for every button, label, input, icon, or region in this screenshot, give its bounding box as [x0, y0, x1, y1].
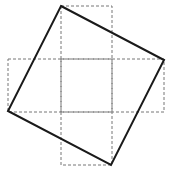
cross-grid-diagram	[0, 0, 169, 173]
grid-cell	[61, 59, 112, 112]
grid-cell	[61, 112, 112, 165]
dashed-cross-grid	[8, 6, 164, 165]
grid-cell	[112, 59, 164, 112]
tilted-square	[8, 6, 164, 165]
grid-cell	[8, 59, 61, 112]
grid-cell	[61, 6, 112, 59]
